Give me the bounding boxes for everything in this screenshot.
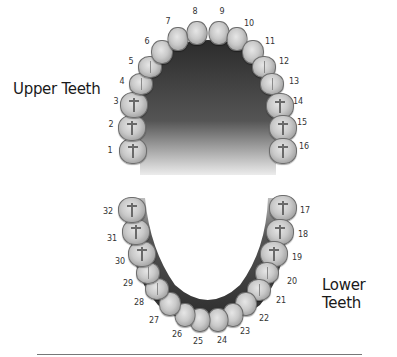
tooth-number-27: 27: [149, 316, 159, 325]
tooth-17[interactable]: [269, 195, 297, 221]
tooth-number-30: 30: [115, 257, 125, 266]
tooth-number-32: 32: [103, 207, 113, 216]
tooth-number-14: 14: [293, 97, 303, 106]
tooth-number-19: 19: [292, 253, 302, 262]
tooth-number-11: 11: [265, 37, 275, 46]
tooth-number-29: 29: [123, 279, 133, 288]
tooth-number-15: 15: [297, 118, 307, 127]
divider-line: [37, 354, 362, 355]
tooth-number-31: 31: [107, 234, 117, 243]
tooth-number-4: 4: [119, 77, 124, 86]
tooth-7[interactable]: [168, 27, 189, 51]
tooth-24[interactable]: [208, 308, 229, 332]
tooth-number-12: 12: [279, 57, 289, 66]
tooth-number-6: 6: [144, 37, 149, 46]
tooth-number-21: 21: [276, 296, 286, 305]
tooth-number-17: 17: [300, 206, 310, 215]
tooth-number-24: 24: [217, 336, 227, 345]
tooth-number-10: 10: [244, 19, 254, 28]
tooth-number-13: 13: [289, 77, 299, 86]
tooth-number-25: 25: [193, 337, 203, 346]
tooth-3[interactable]: [120, 92, 148, 118]
tooth-number-7: 7: [165, 17, 170, 26]
tooth-16[interactable]: [269, 138, 297, 164]
tooth-number-16: 16: [299, 142, 309, 151]
tooth-number-2: 2: [108, 120, 113, 129]
tooth-number-22: 22: [259, 314, 269, 323]
tooth-number-18: 18: [298, 230, 308, 239]
tooth-number-1: 1: [107, 146, 112, 155]
tooth-number-9: 9: [219, 7, 224, 16]
tooth-31[interactable]: [122, 219, 150, 245]
tooth-number-26: 26: [172, 330, 182, 339]
tooth-number-20: 20: [287, 277, 297, 286]
tooth-number-28: 28: [134, 298, 144, 307]
tooth-13[interactable]: [260, 73, 284, 95]
tooth-2[interactable]: [118, 115, 146, 141]
tooth-number-8: 8: [192, 7, 197, 16]
tooth-8[interactable]: [187, 21, 208, 45]
tooth-1[interactable]: [119, 138, 147, 164]
tooth-number-23: 23: [240, 327, 250, 336]
tooth-number-3: 3: [113, 97, 118, 106]
tooth-number-5: 5: [128, 57, 133, 66]
upper-palate: [0, 0, 397, 357]
tooth-32[interactable]: [118, 197, 146, 223]
